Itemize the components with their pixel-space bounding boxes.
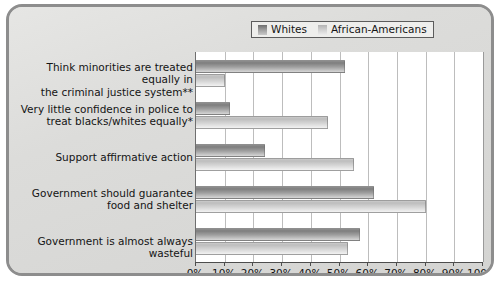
x-axis-tick [252,262,253,266]
x-axis-tick [396,262,397,266]
y-axis-label: Think minorities are treated equally in … [17,61,193,99]
x-axis-tick-label: 20% [241,267,264,276]
x-axis-tick [339,262,340,266]
y-axis-label: Government is almost always wasteful [17,235,193,260]
legend-label-whites: Whites [271,24,307,35]
bar-african-americans [196,242,348,255]
chart-frame: Whites African-Americans Think minoritie… [6,4,494,276]
x-axis-tick-label: 40% [298,267,321,276]
bar-african-americans [196,158,354,171]
x-axis-tick-label: 70% [384,267,407,276]
legend-entry-whites: Whites [258,24,307,35]
legend-swatch-african-americans-icon [318,25,327,35]
x-axis-tick [310,262,311,266]
bar-group [196,178,483,220]
bar-group [196,94,483,136]
x-axis-tick [425,262,426,266]
x-axis-tick [482,262,483,266]
x-axis-tick [195,262,196,266]
x-axis-tick-labels: 0%10%20%30%40%50%60%70%80%90%100% [9,267,491,276]
y-axis-label: Very little confidence in police to trea… [17,103,193,128]
gridline-100 [483,52,484,262]
x-axis-tick-label: 100% [467,267,494,276]
y-axis-label: Support affirmative action [17,151,193,164]
y-axis-category-labels: Think minorities are treated equally in … [17,52,193,262]
x-axis-tick-label: 0% [187,267,204,276]
bar-whites [196,60,345,73]
bar-group [196,220,483,262]
bar-groups [196,52,483,262]
legend-label-african-americans: African-Americans [331,24,427,35]
x-axis-tick-label: 60% [356,267,379,276]
chart-legend: Whites African-Americans [251,21,434,38]
x-axis-tick-label: 80% [413,267,436,276]
x-axis-tick-label: 90% [442,267,465,276]
x-axis-tick-label: 50% [327,267,350,276]
plot-area [195,52,483,262]
legend-entry-african-americans: African-Americans [318,24,427,35]
x-axis-tick-label: 10% [212,267,235,276]
x-axis-tick [281,262,282,266]
legend-swatch-whites-icon [258,25,267,35]
x-axis-tick-label: 30% [269,267,292,276]
chart-canvas: Whites African-Americans Think minoritie… [9,7,491,273]
bar-african-americans [196,200,426,213]
x-axis-tick [367,262,368,266]
y-axis-label: Government should guarantee food and she… [17,187,193,212]
bar-african-americans [196,74,225,87]
bar-group [196,136,483,178]
bar-whites [196,144,265,157]
bar-group [196,52,483,94]
bar-whites [196,186,374,199]
x-axis-tick [224,262,225,266]
x-axis-tick [453,262,454,266]
bar-whites [196,102,230,115]
bar-african-americans [196,116,328,129]
bar-whites [196,228,360,241]
